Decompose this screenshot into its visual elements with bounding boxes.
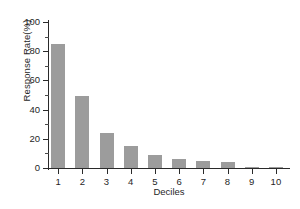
bar-decile-7 [196,161,210,168]
x-tick-4 [131,169,132,174]
bar-decile-2 [75,96,89,168]
x-tick-2 [82,169,83,174]
bar-decile-5 [148,155,162,168]
x-tick-8 [228,169,229,174]
bar-decile-9 [245,167,259,168]
y-tick-label-40: 40 [14,105,40,115]
y-minor-tick-30 [45,124,49,125]
x-tick-1 [58,169,59,174]
bar-chart: Response Rate(%) 12345678910 02040608010… [0,0,300,209]
bar-decile-8 [221,162,235,168]
x-axis-line [44,168,290,169]
y-minor-tick-90 [45,37,49,38]
x-tick-6 [179,169,180,174]
y-tick-label-100: 100 [14,17,40,27]
y-tick-40 [43,110,49,111]
y-minor-tick-50 [45,95,49,96]
y-tick-label-80: 80 [14,46,40,56]
bar-decile-6 [172,159,186,168]
x-tick-5 [155,169,156,174]
y-tick-20 [43,139,49,140]
x-tick-10 [276,169,277,174]
bar-decile-4 [124,146,138,168]
y-tick-80 [43,51,49,52]
bar-decile-10 [269,167,283,168]
x-tick-3 [107,169,108,174]
x-tick-7 [203,169,204,174]
y-tick-label-0: 0 [14,163,40,173]
x-axis-title: Deciles [48,186,290,197]
bar-decile-3 [100,133,114,168]
y-tick-label-20: 20 [14,134,40,144]
y-minor-tick-10 [45,153,49,154]
y-tick-100 [43,22,49,23]
y-tick-label-60: 60 [14,75,40,85]
y-minor-tick-70 [45,66,49,67]
bar-decile-1 [51,44,65,168]
y-tick-0 [43,168,49,169]
plot-area: 12345678910 [48,22,290,168]
x-tick-9 [252,169,253,174]
y-tick-60 [43,80,49,81]
